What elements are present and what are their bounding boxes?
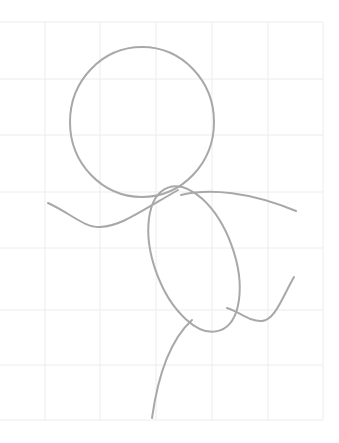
right-leg-stroke [227,277,294,321]
grid [0,22,323,420]
body-ellipse [130,174,257,344]
head-circle [70,47,214,197]
sketch-canvas[interactable] [0,0,339,443]
left-leg-stroke [152,320,192,418]
